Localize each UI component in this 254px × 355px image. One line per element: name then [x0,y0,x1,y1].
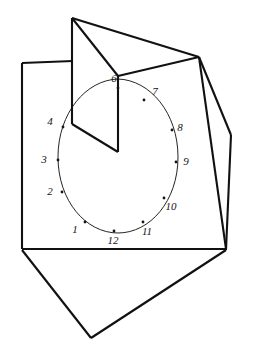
hour-label: 11 [142,225,152,237]
hour-label: 3 [40,153,47,165]
hour-label: 4 [47,115,53,127]
hour-dot [62,126,65,129]
hour-dot [117,87,120,90]
hour-label: 9 [183,155,189,167]
hour-dot [143,99,146,102]
hour-dot [57,159,60,162]
sundial-drawing: 12346789101112 [0,0,254,355]
hour-label: 10 [166,200,178,212]
hour-dot [171,129,174,132]
hour-dot [84,221,87,224]
hour-label: 2 [47,185,53,197]
hour-label: 12 [108,234,120,246]
hour-label: 1 [72,223,78,235]
hour-label: 7 [152,85,158,97]
hour-label: 6 [111,72,117,84]
sundial-figure: 12346789101112 [0,0,254,355]
hour-dot [142,221,145,224]
hour-dot [61,191,64,194]
hour-dot [113,230,116,233]
hour-dot [175,161,178,164]
hour-label: 8 [177,121,183,133]
